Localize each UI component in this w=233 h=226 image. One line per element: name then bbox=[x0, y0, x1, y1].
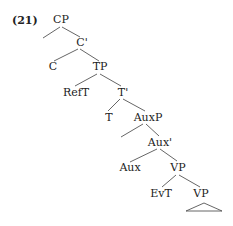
branch-tp-tbar bbox=[100, 74, 121, 86]
node-t-bar: T' bbox=[118, 87, 128, 98]
node-cp: CP bbox=[53, 14, 69, 25]
branch-vp-evt bbox=[162, 175, 176, 187]
branch-vp-vp bbox=[179, 175, 200, 187]
branch-auxp-auxbar bbox=[146, 124, 159, 136]
branch-auxp-spec bbox=[121, 124, 143, 137]
node-reft: RefT bbox=[63, 87, 89, 98]
branch-tp-reft bbox=[75, 74, 97, 86]
node-tp: TP bbox=[93, 61, 108, 72]
node-aux-bar: Aux' bbox=[148, 137, 172, 148]
branch-tbar-t bbox=[108, 99, 120, 111]
branch-cbar-c bbox=[54, 49, 78, 61]
node-auxp: AuxP bbox=[134, 112, 163, 123]
node-aux: Aux bbox=[119, 162, 140, 173]
node-t: T bbox=[105, 112, 112, 123]
node-vp-lower: VP bbox=[193, 188, 208, 199]
triangle-icon bbox=[186, 203, 222, 211]
node-c-bar: C' bbox=[76, 37, 87, 48]
branch-tbar-auxp bbox=[123, 99, 145, 111]
node-evt: EvT bbox=[150, 188, 172, 199]
node-vp-upper: VP bbox=[170, 162, 185, 173]
branch-auxbar-vp bbox=[160, 149, 177, 161]
node-c: C bbox=[49, 61, 57, 72]
branch-cp-spec bbox=[43, 27, 60, 38]
